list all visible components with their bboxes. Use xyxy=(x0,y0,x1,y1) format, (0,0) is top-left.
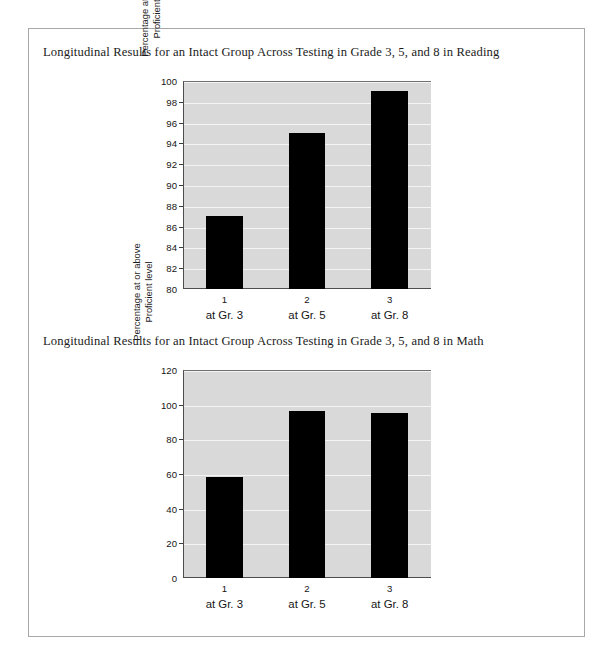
y-tick-mark xyxy=(179,123,183,124)
bar-chart-math: Percentage at or above Proficient level … xyxy=(137,360,467,607)
y-tick-label: 80 xyxy=(166,434,177,445)
y-tick-mark xyxy=(179,474,183,475)
y-tick-label: 84 xyxy=(166,242,177,253)
y-tick-label: 88 xyxy=(166,200,177,211)
document-page-frame: Longitudinal Results for an Intact Group… xyxy=(28,28,585,637)
bar xyxy=(289,133,325,289)
figure-title-reading: Longitudinal Results for an Intact Group… xyxy=(43,45,500,60)
x-tick-label: 1 xyxy=(206,293,243,307)
gridline xyxy=(184,371,431,372)
y-tick-label: 86 xyxy=(166,221,177,232)
y-tick-label: 60 xyxy=(166,469,177,480)
bar xyxy=(206,477,242,578)
x-category-sublabel: at Gr. 3 xyxy=(206,307,243,323)
y-tick-mark xyxy=(179,227,183,228)
y-tick-label: 92 xyxy=(166,159,177,170)
y-tick-label: 40 xyxy=(166,503,177,514)
x-category-sublabel: at Gr. 3 xyxy=(206,596,243,612)
y-tick-mark xyxy=(179,143,183,144)
y-tick-label: 94 xyxy=(166,138,177,149)
y-tick-mark xyxy=(179,247,183,248)
x-category-sublabel: at Gr. 5 xyxy=(288,596,325,612)
y-tick-label: 120 xyxy=(161,365,177,376)
x-category-sublabel: at Gr. 8 xyxy=(371,596,408,612)
figure-title-math: Longitudinal Results for an Intact Group… xyxy=(43,334,484,349)
y-tick-label: 82 xyxy=(166,263,177,274)
x-axis-label-group: 2at Gr. 5 xyxy=(288,582,325,612)
x-tick-label: 3 xyxy=(371,293,408,307)
x-category-sublabel: at Gr. 5 xyxy=(288,307,325,323)
x-axis-label-group: 3at Gr. 8 xyxy=(371,293,408,323)
bar xyxy=(289,411,325,578)
y-tick-mark xyxy=(179,185,183,186)
x-tick-label: 3 xyxy=(371,582,408,596)
y-tick-mark xyxy=(179,405,183,406)
x-axis-label-group: 1at Gr. 3 xyxy=(206,293,243,323)
plot-wrap-math: 020406080100120 1at Gr. 32at Gr. 53at Gr… xyxy=(183,370,431,578)
gridline xyxy=(184,406,431,407)
y-tick-label: 98 xyxy=(166,96,177,107)
x-tick-label: 2 xyxy=(288,582,325,596)
plot-wrap-reading: 80828486889092949698100 1at Gr. 32at Gr.… xyxy=(183,81,431,289)
y-tick-label: 100 xyxy=(161,76,177,87)
y-tick-label: 90 xyxy=(166,180,177,191)
x-axis-label-group: 3at Gr. 8 xyxy=(371,582,408,612)
x-tick-label: 2 xyxy=(288,293,325,307)
x-tick-label: 1 xyxy=(206,582,243,596)
bar xyxy=(371,413,407,578)
x-category-sublabel: at Gr. 8 xyxy=(371,307,408,323)
x-axis-label-group: 2at Gr. 5 xyxy=(288,293,325,323)
y-tick-mark xyxy=(179,206,183,207)
y-tick-mark xyxy=(179,509,183,510)
x-axis-label-group: 1at Gr. 3 xyxy=(206,582,243,612)
y-tick-mark xyxy=(179,268,183,269)
bar-chart-reading: Percentage at or above Proficient level … xyxy=(137,71,467,318)
y-tick-mark xyxy=(179,102,183,103)
bar xyxy=(206,216,242,289)
y-tick-label: 20 xyxy=(166,538,177,549)
bar xyxy=(371,91,407,289)
y-tick-label: 96 xyxy=(166,117,177,128)
y-tick-label: 80 xyxy=(166,284,177,295)
gridline xyxy=(184,82,431,83)
y-tick-label: 0 xyxy=(172,573,177,584)
y-tick-mark xyxy=(179,164,183,165)
y-tick-mark xyxy=(179,439,183,440)
y-tick-label: 100 xyxy=(161,399,177,410)
y-tick-mark xyxy=(179,543,183,544)
